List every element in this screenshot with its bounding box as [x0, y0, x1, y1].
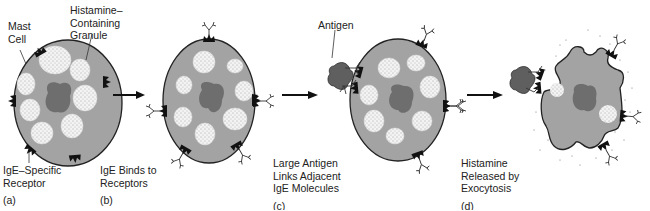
granule-label: Histamine–ContainingGranule: [70, 4, 123, 42]
mast-cell-leader: [20, 50, 26, 64]
caption-b: IgE Binds toReceptors (b): [100, 164, 157, 207]
antigen-d: [510, 66, 542, 94]
panel-letter-b: (b): [100, 194, 157, 207]
nucleus: [46, 82, 72, 112]
arrow-b-c: [282, 91, 318, 99]
panel-d-cell: [532, 29, 641, 166]
caption-d: HistamineReleased byExocytosis (d): [461, 157, 519, 210]
caption-c: Large AntigenLinks AdjacentIgE Molecules…: [273, 157, 341, 210]
panel-c-cell: [349, 25, 451, 175]
panel-letter-d: (d): [461, 200, 519, 211]
panel-b-cell: [146, 22, 260, 169]
panel-letter-c: (c): [273, 200, 341, 211]
panel-a-cell: [8, 34, 122, 166]
arrow-c-d: [467, 91, 503, 99]
panel-letter-a: (a): [3, 194, 61, 207]
mast-cell-label: MastCell: [8, 20, 31, 45]
antigen-leader: [332, 30, 335, 58]
antigen-label: Antigen: [318, 19, 354, 32]
caption-a: IgE–SpecificReceptor (a): [3, 164, 61, 207]
